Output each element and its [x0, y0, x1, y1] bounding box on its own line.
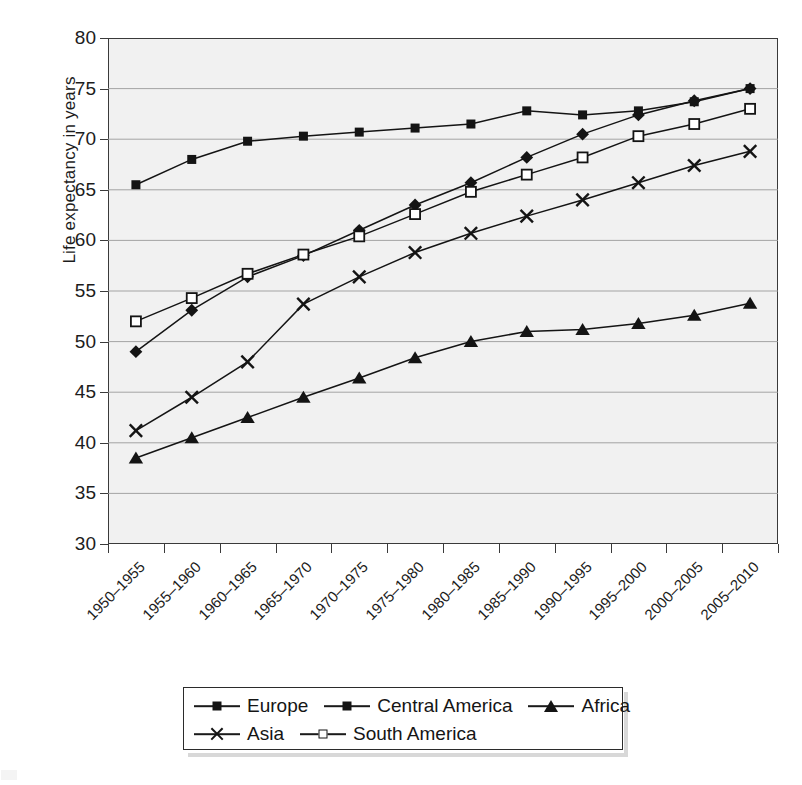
data-point-marker — [131, 316, 141, 326]
data-point-marker — [187, 155, 196, 164]
legend-marker-icon — [324, 698, 370, 714]
data-point-marker — [299, 132, 308, 141]
legend-label: Africa — [581, 695, 630, 717]
y-axis-tick-label: 65 — [26, 179, 96, 201]
data-point-marker — [578, 110, 587, 119]
x-axis-tick-mark — [108, 544, 109, 553]
legend-item-europe[interactable]: Europe — [194, 692, 308, 720]
legend-label: Asia — [247, 723, 284, 745]
y-axis-tick-label: 55 — [26, 280, 96, 302]
legend-shadow-bottom — [188, 753, 628, 757]
y-axis-tick-label: 45 — [26, 381, 96, 403]
plot-svg — [108, 38, 778, 544]
data-point-marker — [522, 170, 532, 180]
y-axis-tick-mark — [100, 544, 108, 545]
data-point-marker — [632, 177, 644, 189]
legend-row: EuropeCentral AmericaAfrica — [194, 692, 646, 720]
y-axis-tick-mark — [100, 89, 108, 90]
data-point-marker — [355, 128, 364, 137]
data-point-marker — [186, 391, 198, 403]
data-point-marker — [297, 298, 309, 310]
x-axis-tick-mark — [778, 544, 779, 553]
data-point-marker — [689, 119, 699, 129]
data-point-marker — [576, 194, 588, 206]
x-axis-tick-mark — [555, 544, 556, 553]
y-axis-tick-label: 50 — [26, 331, 96, 353]
y-axis-tick-mark — [100, 392, 108, 393]
series-line — [136, 303, 750, 458]
y-axis-tick-mark — [100, 139, 108, 140]
data-point-marker — [131, 180, 140, 189]
legend-item-south-america[interactable]: South America — [300, 720, 477, 748]
legend-item-africa[interactable]: Africa — [528, 692, 630, 720]
y-axis-tick-mark — [100, 493, 108, 494]
data-point-marker — [521, 210, 533, 222]
legend-marker-icon — [194, 698, 240, 714]
data-point-marker — [185, 431, 199, 443]
data-point-marker — [410, 209, 420, 219]
page-scan-artifact — [1, 770, 17, 780]
data-point-marker — [298, 250, 308, 260]
series-line — [136, 89, 750, 352]
x-axis-tick-mark — [387, 544, 388, 553]
y-axis-tick-label: 75 — [26, 78, 96, 100]
x-axis-tick-mark — [443, 544, 444, 553]
data-point-marker — [354, 231, 364, 241]
data-point-marker — [411, 124, 420, 133]
y-axis-tick-label: 60 — [26, 229, 96, 251]
data-point-marker — [576, 128, 589, 141]
legend-item-central-america[interactable]: Central America — [324, 692, 512, 720]
x-axis-tick-mark — [499, 544, 500, 553]
data-point-marker — [243, 137, 252, 146]
data-point-marker — [243, 269, 253, 279]
series-europe — [131, 84, 754, 189]
data-point-marker — [129, 451, 143, 463]
data-point-marker — [465, 227, 477, 239]
plot-area — [108, 38, 778, 544]
y-axis-tick-label: 70 — [26, 128, 96, 150]
data-point-marker — [520, 151, 533, 164]
y-axis-tick-label: 80 — [26, 27, 96, 49]
legend-item-asia[interactable]: Asia — [194, 720, 284, 748]
y-axis-tick-mark — [100, 240, 108, 241]
x-axis-tick-mark — [220, 544, 221, 553]
series-central-america — [130, 82, 757, 358]
legend-label: Central America — [377, 695, 512, 717]
y-axis-tick-mark — [100, 190, 108, 191]
data-point-marker — [522, 106, 531, 115]
data-point-marker — [241, 356, 253, 368]
series-south-america — [131, 104, 755, 327]
x-axis-tick-mark — [611, 544, 612, 553]
data-point-marker — [745, 104, 755, 114]
data-point-marker — [240, 411, 254, 423]
data-point-marker — [353, 271, 365, 283]
data-point-marker — [409, 246, 421, 258]
life-expectancy-line-chart: Life expectancy in years 807570656055504… — [0, 0, 802, 785]
y-axis-tick-mark — [100, 443, 108, 444]
chart-legend: EuropeCentral AmericaAfricaAsiaSouth Ame… — [183, 687, 623, 750]
y-axis-tick-label: 35 — [26, 482, 96, 504]
y-axis-tick-label: 40 — [26, 432, 96, 454]
y-axis-tick-label: 30 — [26, 533, 96, 555]
x-axis-tick-mark — [164, 544, 165, 553]
series-line — [136, 109, 750, 322]
x-axis-tick-mark — [276, 544, 277, 553]
legend-label: Europe — [247, 695, 308, 717]
data-point-marker — [633, 131, 643, 141]
data-point-marker — [408, 351, 422, 363]
data-point-marker — [744, 145, 756, 157]
legend-marker-icon — [528, 698, 574, 714]
data-point-marker — [352, 372, 366, 384]
x-axis-tick-mark — [331, 544, 332, 553]
data-point-marker — [688, 159, 700, 171]
y-axis-tick-mark — [100, 291, 108, 292]
data-point-marker — [466, 120, 475, 129]
legend-marker-icon — [194, 726, 240, 742]
x-axis-tick-mark — [666, 544, 667, 553]
data-point-marker — [578, 152, 588, 162]
series-line — [136, 89, 750, 185]
y-axis-tick-mark — [100, 342, 108, 343]
legend-label: South America — [353, 723, 477, 745]
y-axis-tick-mark — [100, 38, 108, 39]
legend-marker-icon — [300, 726, 346, 742]
